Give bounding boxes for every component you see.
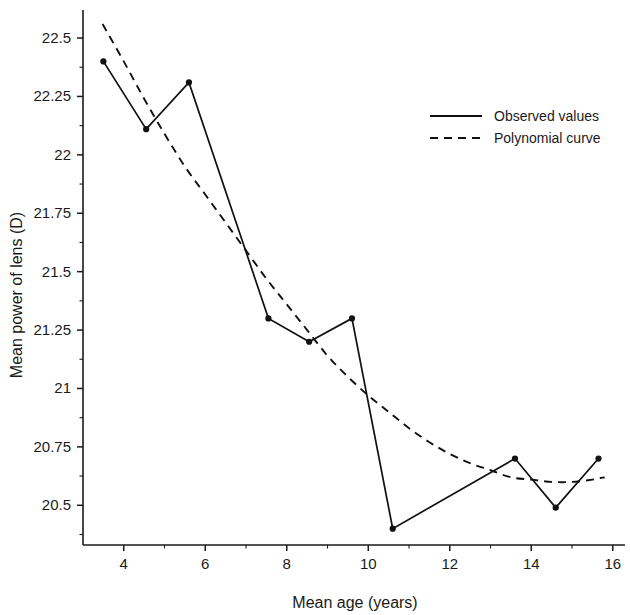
- legend-label-polynomial-curve: Polynomial curve: [494, 130, 601, 146]
- y-axis-tick-labels: 20.520.752121.2521.521.752222.2522.5: [33, 29, 71, 513]
- x-axis-major-ticks: [124, 545, 613, 551]
- y-axis-tick-label: 22: [54, 146, 71, 163]
- data-point-marker: [143, 126, 149, 132]
- y-axis-title: Mean power of lens (D): [8, 212, 25, 378]
- polynomial-curve-line: [103, 24, 605, 482]
- data-point-marker: [595, 455, 601, 461]
- line-chart: 20.520.752121.2521.521.752222.2522.5 468…: [0, 0, 630, 615]
- data-point-marker: [265, 315, 271, 321]
- data-point-marker: [553, 505, 559, 511]
- y-axis-tick-label: 21: [54, 379, 71, 396]
- data-point-marker: [306, 339, 312, 345]
- x-axis-tick-labels: 46810121416: [120, 555, 622, 572]
- x-axis-tick-label: 16: [604, 555, 621, 572]
- x-axis-tick-label: 14: [523, 555, 540, 572]
- legend-label-observed-values: Observed values: [494, 108, 599, 124]
- chart-figure: 20.520.752121.2521.521.752222.2522.5 468…: [0, 0, 630, 615]
- y-axis-tick-label: 21.75: [33, 204, 71, 221]
- data-point-marker: [390, 526, 396, 532]
- data-point-marker: [512, 455, 518, 461]
- data-point-marker: [186, 79, 192, 85]
- data-point-marker: [100, 58, 106, 64]
- chart-legend: Observed values Polynomial curve: [430, 108, 601, 146]
- x-axis-tick-label: 6: [201, 555, 209, 572]
- x-axis-tick-label: 12: [441, 555, 458, 572]
- y-axis-tick-label: 20.5: [42, 496, 71, 513]
- y-axis-major-ticks: [77, 38, 83, 505]
- y-axis-tick-label: 22.25: [33, 87, 71, 104]
- y-axis-tick-label: 22.5: [42, 29, 71, 46]
- x-axis-tick-label: 8: [283, 555, 291, 572]
- x-axis-title: Mean age (years): [292, 594, 417, 611]
- data-point-marker: [349, 315, 355, 321]
- y-axis-tick-label: 20.75: [33, 438, 71, 455]
- y-axis-tick-label: 21.5: [42, 263, 71, 280]
- y-axis-tick-label: 21.25: [33, 321, 71, 338]
- x-axis-tick-label: 4: [120, 555, 128, 572]
- x-axis-tick-label: 10: [360, 555, 377, 572]
